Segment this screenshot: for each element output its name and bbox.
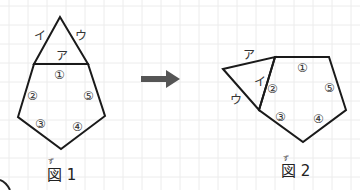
fig2-label-i: イ bbox=[254, 75, 266, 89]
fig2-region-4: ④ bbox=[313, 112, 324, 126]
fig1-region-4: ④ bbox=[72, 120, 83, 134]
fig1-label-i: イ bbox=[34, 29, 46, 43]
fig1-region-5: ⑤ bbox=[83, 89, 94, 103]
fig1-ruby: ず bbox=[48, 157, 54, 165]
fig1-region-2: ② bbox=[27, 89, 38, 103]
fig1-region-1: ① bbox=[54, 68, 65, 82]
figure-2: ア イ ウ ① ② ③ ④ ⑤ ず 図 2 bbox=[223, 48, 346, 180]
fig2-caption: 図 2 bbox=[281, 162, 310, 180]
fig2-region-2: ② bbox=[267, 82, 278, 96]
fig2-label-a: ア bbox=[243, 48, 255, 62]
fig2-ruby: ず bbox=[283, 154, 289, 162]
diagram-canvas: イ ウ ア ① ② ③ ④ ⑤ ず 図 1 ア イ ウ ① ② ③ ④ ⑤ ず … bbox=[0, 0, 360, 190]
fig1-caption: 図 1 bbox=[47, 166, 76, 184]
fig2-region-3: ③ bbox=[275, 110, 286, 124]
fig1-region-3: ③ bbox=[35, 117, 46, 131]
fig2-region-5: ⑤ bbox=[324, 81, 335, 95]
fig1-label-u: ウ bbox=[75, 29, 87, 43]
fig1-label-a: ア bbox=[56, 49, 68, 63]
fig2-region-1: ① bbox=[297, 61, 308, 75]
fig2-label-u: ウ bbox=[230, 93, 242, 107]
